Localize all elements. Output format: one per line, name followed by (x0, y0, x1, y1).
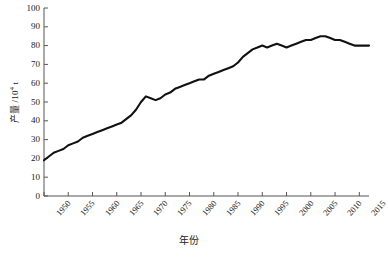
x-axis-label: 年份 (0, 232, 377, 247)
x-tick-marks (44, 192, 359, 196)
y-tick-marks (44, 8, 48, 196)
data-series-line (44, 36, 369, 160)
